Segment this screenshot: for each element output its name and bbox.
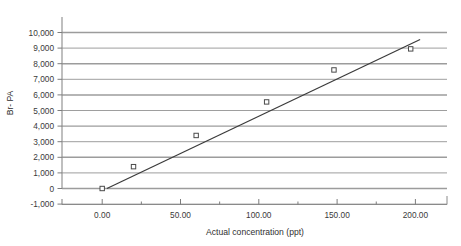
trendline-group (107, 40, 420, 189)
data-point-marker (264, 100, 268, 104)
x-tick-label: 100.00 (246, 210, 272, 220)
data-point-marker (100, 186, 104, 190)
y-tick-label: 7,000 (33, 74, 54, 84)
y-tick-labels: -1,00001,0002,0003,0004,0005,0006,0007,0… (29, 28, 55, 210)
y-tick-label: 3,000 (33, 137, 54, 147)
data-point-marker (409, 47, 413, 51)
y-tick-label: 2,000 (33, 152, 54, 162)
y-tick-label: 8,000 (33, 59, 54, 69)
y-tick-label: 0 (49, 184, 54, 194)
data-point-marker (194, 133, 198, 137)
y-tick-label: 1,000 (33, 168, 54, 178)
y-tick-label: 5,000 (33, 106, 54, 116)
y-tick-label: 9,000 (33, 43, 54, 53)
x-tick-label: 150.00 (324, 210, 350, 220)
x-tick-label: 0.00 (94, 210, 111, 220)
data-point-marker (131, 164, 135, 168)
y-tick-label: 6,000 (33, 90, 54, 100)
x-tick-labels: 0.0050.00100.00150.00200.00 (94, 210, 428, 220)
y-tick-marks (58, 33, 63, 205)
y-tick-label: 10,000 (29, 28, 55, 38)
x-axis-title: Actual concentration (ppt) (206, 227, 304, 237)
trendline (107, 40, 420, 189)
chart-container: -1,00001,0002,0003,0004,0005,0006,0007,0… (0, 0, 461, 246)
y-tick-label: 4,000 (33, 121, 54, 131)
y-tick-label: -1,000 (30, 199, 54, 209)
y-axis-title: Br- PA (5, 90, 15, 115)
data-point-marker (332, 68, 336, 72)
x-tick-label: 50.00 (170, 210, 191, 220)
scatter-chart: -1,00001,0002,0003,0004,0005,0006,0007,0… (0, 0, 461, 246)
x-tick-label: 200.00 (403, 210, 429, 220)
